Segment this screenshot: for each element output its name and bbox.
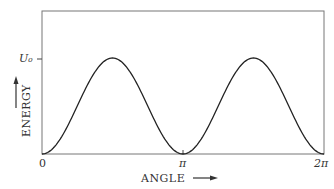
x-tick-label-0: 0	[39, 157, 46, 170]
x-tick-label-2pi: 2π	[314, 157, 328, 170]
x-arrow-head-icon	[210, 176, 218, 181]
x-axis-label: ANGLE	[141, 172, 185, 185]
energy-curve	[42, 58, 324, 154]
y-axis-label: ENERGY	[20, 84, 33, 137]
energy-angle-chart	[0, 0, 334, 189]
y-tick-label-u0: U₀	[19, 52, 33, 65]
plot-frame	[42, 11, 324, 154]
y-arrow-head-icon	[14, 76, 19, 84]
x-tick-label-pi: π	[179, 157, 186, 170]
